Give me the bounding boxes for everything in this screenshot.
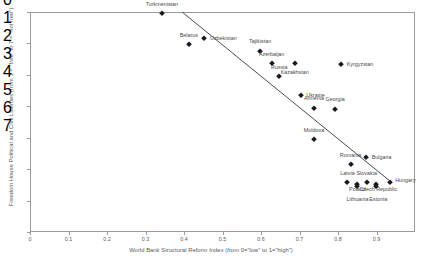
data-point-label: Estonia xyxy=(369,196,387,202)
data-point xyxy=(292,61,297,66)
x-tick-label: 0.8 xyxy=(334,236,342,242)
x-tick-label: 0.1 xyxy=(65,236,73,242)
x-tick-label: 0.2 xyxy=(103,236,111,242)
data-point xyxy=(363,154,368,159)
x-tick-label: 0.3 xyxy=(142,236,150,242)
y-tick-label: 1 xyxy=(0,9,12,27)
y-tick-label: 2 xyxy=(0,27,12,45)
x-tick-mark xyxy=(30,232,31,235)
x-tick-mark xyxy=(69,232,70,235)
y-tick-label: 3 xyxy=(0,45,12,63)
x-tick-label: 0.4 xyxy=(180,236,188,242)
y-tick-label: 7 xyxy=(0,117,12,135)
data-point xyxy=(338,61,343,66)
x-tick-mark xyxy=(184,232,185,235)
data-point-label: Moldova xyxy=(304,127,324,133)
data-point-label: Georgia xyxy=(326,96,345,102)
x-tick-mark xyxy=(107,232,108,235)
data-point-label: Armenia xyxy=(304,95,324,101)
x-tick-mark xyxy=(223,232,224,235)
data-point xyxy=(333,106,338,111)
y-tick-label: 5 xyxy=(0,81,12,99)
data-point-label: Lithuania xyxy=(347,196,369,202)
data-point xyxy=(345,180,350,185)
x-tick-label: 0 xyxy=(29,236,32,242)
data-point-label: Romania xyxy=(340,152,362,158)
data-point xyxy=(311,105,316,110)
data-point-label: Uzbekistan xyxy=(210,35,237,41)
x-axis-title: World Bank Structural Reform Index (from… xyxy=(0,247,422,253)
x-tick-mark xyxy=(261,232,262,235)
data-point xyxy=(364,180,369,185)
x-tick-label: 0.6 xyxy=(257,236,265,242)
data-point-label: Slovakia xyxy=(357,170,377,176)
y-tick-label: 0 xyxy=(0,0,12,9)
data-point-label: Kyrgyzstan xyxy=(347,61,374,67)
data-point-label: Bulgaria xyxy=(372,154,392,160)
x-tick-mark xyxy=(377,232,378,235)
plot-area: TurkmenistanUzbekistanBelarusTajikistanA… xyxy=(30,12,415,232)
data-point-label: Turkmenistan xyxy=(146,1,178,7)
data-point-label: Russia xyxy=(271,64,287,70)
data-point xyxy=(311,137,316,142)
data-point-label: Latvia xyxy=(340,170,354,176)
x-tick-label: 0.5 xyxy=(219,236,227,242)
data-point xyxy=(298,92,303,97)
scatter-chart: Freedom House Political and Civil Libert… xyxy=(0,0,422,259)
data-point xyxy=(348,162,353,167)
x-tick-label: 0.7 xyxy=(296,236,304,242)
x-tick-label: 0.9 xyxy=(373,236,381,242)
data-point-label: Azerbaijan xyxy=(259,51,284,57)
x-tick-mark xyxy=(300,232,301,235)
y-tick-label: 4 xyxy=(0,63,12,81)
data-point-label: Belarus xyxy=(180,32,198,38)
data-point xyxy=(277,74,282,79)
data-point-label: Hungary xyxy=(395,177,415,183)
data-point xyxy=(186,42,191,47)
data-point xyxy=(159,10,164,15)
data-point xyxy=(387,180,392,185)
data-point-label: Tajikistan xyxy=(249,38,271,44)
x-tick-mark xyxy=(338,232,339,235)
y-tick-label: 6 xyxy=(0,99,12,117)
data-point-label: Czech Republic xyxy=(359,186,397,192)
data-point xyxy=(202,36,207,41)
x-tick-mark xyxy=(146,232,147,235)
